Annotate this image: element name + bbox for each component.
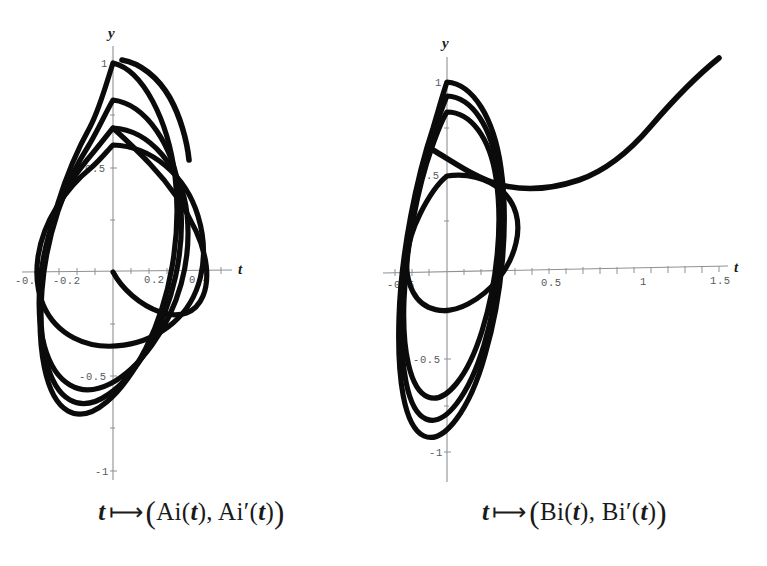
bi-ytick-label-3: -1 <box>429 447 443 459</box>
caption-ai-fn2: Ai <box>218 498 244 525</box>
caption-bi-fn1-arg: t <box>573 498 580 525</box>
bi-y-axis-label: y <box>440 35 449 51</box>
caption-ai-fn2-arg: t <box>258 498 265 525</box>
caption-bi-open-paren: ( <box>529 495 540 530</box>
caption-bi-fn2-arg: t <box>640 498 647 525</box>
ai-y-axis-label: y <box>106 25 115 41</box>
bi-phase-plot-svg: -0.5 0.5 1 1.5 1 0.5 -0.5 -1 t y <box>383 0 766 495</box>
ai-x-axis-label: t <box>238 261 243 277</box>
caption-ai-comma: , <box>206 498 218 525</box>
bi-ytick-label-0: 1 <box>435 77 442 89</box>
bi-xtick-label-3: 1.5 <box>710 275 731 287</box>
ai-xtick-label-2: 0.2 <box>144 274 165 286</box>
caption-bi-fn2: Bi <box>602 498 626 525</box>
caption-ai: t⟼(Ai(t), Ai′(t)) <box>0 495 383 531</box>
caption-bi-prime: ′ <box>626 498 632 525</box>
bi-x-axis <box>383 266 728 273</box>
ai-phase-plot-svg: -0.4 -0.2 0.2 0.4 1 0.5 -0.5 -1 t y <box>0 0 383 495</box>
panel-airy-ai: -0.4 -0.2 0.2 0.4 1 0.5 -0.5 -1 t y <box>0 0 383 566</box>
plot-area-bi: -0.5 0.5 1 1.5 1 0.5 -0.5 -1 t y <box>383 0 766 495</box>
ai-curve-inner-oval <box>40 63 177 414</box>
ai-ytick-label-2: -0.5 <box>79 371 107 383</box>
caption-bi-close-paren: ) <box>656 495 667 530</box>
ai-ytick-label-0: 1 <box>101 58 108 70</box>
bi-ytick-label-2: -0.5 <box>413 354 441 366</box>
caption-bi-arrow: ⟼ <box>489 499 529 525</box>
caption-ai-fn1-arg: t <box>190 498 197 525</box>
caption-bi-comma: , <box>589 498 602 525</box>
ai-xtick-label-1: -0.2 <box>53 275 81 287</box>
airy-phase-plots-figure: -0.4 -0.2 0.2 0.4 1 0.5 -0.5 -1 t y <box>0 0 767 566</box>
panel-airy-bi: -0.5 0.5 1 1.5 1 0.5 -0.5 -1 t y <box>383 0 766 566</box>
caption-ai-close-paren: ) <box>274 495 285 530</box>
bi-xtick-label-2: 1 <box>640 276 647 288</box>
caption-ai-param: t <box>98 498 105 525</box>
caption-bi: t⟼(Bi(t), Bi′(t)) <box>383 495 766 531</box>
caption-ai-prime: ′ <box>244 498 250 525</box>
ai-ytick-label-3: -1 <box>95 466 109 478</box>
ai-curve-cusped-arc <box>113 128 207 315</box>
bi-x-axis-label: t <box>734 259 739 275</box>
caption-bi-fn1: Bi <box>540 498 564 525</box>
ai-curves <box>37 60 207 414</box>
caption-ai-arrow: ⟼ <box>106 499 146 525</box>
caption-ai-fn1: Ai <box>156 498 182 525</box>
caption-ai-open-paren: ( <box>146 495 157 530</box>
plot-area-ai: -0.4 -0.2 0.2 0.4 1 0.5 -0.5 -1 t y <box>0 0 383 495</box>
bi-xtick-label-1: 0.5 <box>541 277 562 289</box>
